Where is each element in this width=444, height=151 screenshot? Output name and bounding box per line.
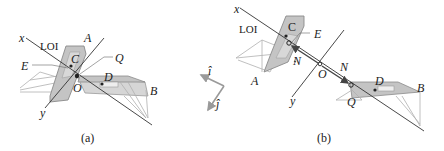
i-hat-label: î [208,65,211,77]
x-axis-label-a: x [19,32,24,44]
y-axis-label-a: y [40,107,45,119]
boat-a-label-b: A [251,75,258,87]
point-e-label-a: E [21,60,28,72]
center-d-label-b: D [375,75,384,87]
origin-label-a: O [73,82,82,94]
point-q-label-a: Q [115,52,124,64]
boat-b-label-a: B [150,85,157,97]
y-axis-label-b: y [290,95,295,107]
center-c-label-a: C [71,53,79,65]
j-hat-label: ĵ [216,98,219,110]
center-c-label-b: C [288,21,296,33]
boat-b-a [78,76,148,118]
i-hat-arrow [201,75,224,86]
collision-diagram: x LOI A E C Q D O B y (a) î ĵ x LOI C E … [0,0,444,151]
loi-label-b: LOI [239,24,257,35]
boat-a-label-a: A [84,32,91,44]
x-axis-label-b: x [234,3,239,15]
panel-b [236,8,424,131]
point-e-label-b: E [314,28,321,40]
loi-label-a: LOI [40,41,58,52]
center-d-label-a: D [104,71,113,83]
normal-force-label-2: N [340,61,348,73]
boat-b-label-b: B [417,82,424,94]
normal-force-label-1: N [293,55,301,67]
origin-label-b: O [318,68,327,80]
caption-b: (b) [317,132,331,144]
point-q-label-b: Q [347,96,356,108]
unit-vectors [201,75,224,110]
caption-a: (a) [81,132,94,144]
